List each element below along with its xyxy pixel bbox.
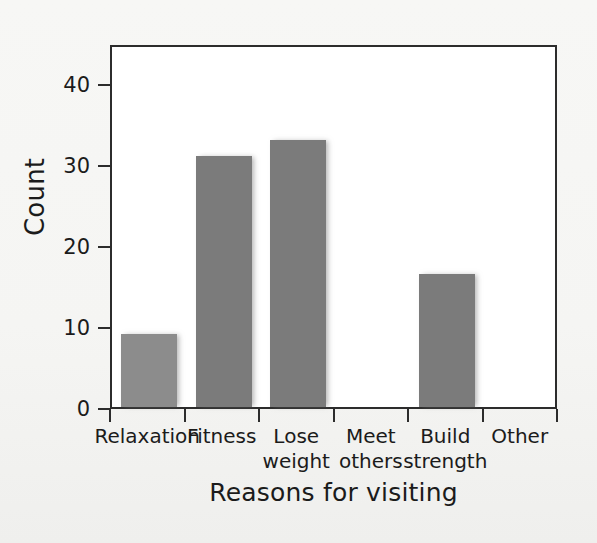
x-axis-title: Reasons for visiting [110,478,557,507]
y-tick-label: 20 [28,235,90,259]
bar-relaxation [121,334,177,407]
y-tick-label: 30 [28,154,90,178]
bar-fitness [196,156,252,407]
x-tick-label: Other [465,424,575,449]
x-tick-mark [333,409,335,422]
x-tick-mark [556,409,558,422]
x-tick-mark [184,409,186,422]
plot-area [112,47,555,407]
y-tick-label: 0 [28,397,90,421]
x-tick-mark [258,409,260,422]
x-tick-mark [482,409,484,422]
y-tick-label: 10 [28,316,90,340]
x-tick-mark [109,409,111,422]
bar-build-strength [419,274,475,407]
plot-frame [110,45,557,409]
x-tick-label-line2: strength [390,449,500,474]
chart-figure: Count 010203040 RelaxationFitnessLosewei… [0,0,597,543]
y-tick-label: 40 [28,73,90,97]
x-tick-label-line1: Other [465,424,575,449]
bar-lose-weight [270,140,326,407]
x-tick-mark [407,409,409,422]
